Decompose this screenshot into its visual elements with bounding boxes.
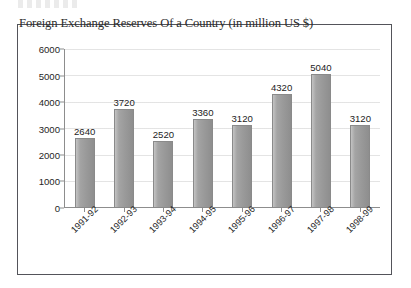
x-axis: 1991-92 1992-93 1993-94 1994-95 1995-96 … xyxy=(65,214,380,260)
y-axis: 6000 5000 4000 3000 2000 1000 0 xyxy=(18,49,60,208)
plot-wrapper: 6000 5000 4000 3000 2000 1000 0 2640 xyxy=(18,25,393,276)
y-axis-tick-label: 6000 xyxy=(39,44,60,55)
bar-group: 3360 xyxy=(183,49,222,208)
bar[interactable] xyxy=(232,125,252,208)
y-axis-tick-label: 2000 xyxy=(39,150,60,161)
bar-group: 3120 xyxy=(341,49,380,208)
x-axis-label-slot: 1991-92 xyxy=(65,214,104,260)
bar[interactable] xyxy=(272,94,292,208)
bar[interactable] xyxy=(153,141,173,208)
bar-series: 2640 3720 2520 3360 3120 4320 xyxy=(65,49,380,208)
y-axis-tick-label: 1000 xyxy=(39,176,60,187)
bar[interactable] xyxy=(311,74,331,208)
x-axis-label-slot: 1998-99 xyxy=(341,214,380,260)
bar-group: 2520 xyxy=(144,49,183,208)
bar[interactable] xyxy=(114,109,134,208)
bar-group: 2640 xyxy=(65,49,104,208)
x-axis-label-slot: 1993-94 xyxy=(144,214,183,260)
x-axis-label-slot: 1994-95 xyxy=(183,214,222,260)
x-axis-label-slot: 1992-93 xyxy=(104,214,143,260)
bar[interactable] xyxy=(193,119,213,208)
bar-value-label: 2520 xyxy=(153,129,174,140)
bar-group: 5040 xyxy=(301,49,340,208)
bar-value-label: 5040 xyxy=(310,62,331,73)
bar-value-label: 3360 xyxy=(192,107,213,118)
bar-group: 3720 xyxy=(104,49,143,208)
bar-value-label: 3720 xyxy=(113,97,134,108)
bar-value-label: 4320 xyxy=(271,82,292,93)
chart-figure-frame: 6000 5000 4000 3000 2000 1000 0 2640 xyxy=(17,24,392,275)
y-axis-tick-label: 5000 xyxy=(39,70,60,81)
bar-group: 3120 xyxy=(223,49,262,208)
bar-group: 4320 xyxy=(262,49,301,208)
y-axis-tick-label: 3000 xyxy=(39,123,60,134)
scan-artifact xyxy=(18,0,78,8)
bar[interactable] xyxy=(75,138,95,208)
x-axis-label-slot: 1997-98 xyxy=(301,214,340,260)
y-axis-tick-label: 4000 xyxy=(39,96,60,107)
bar-value-label: 3120 xyxy=(350,113,371,124)
x-axis-label-slot: 1995-96 xyxy=(223,214,262,260)
x-axis-label-slot: 1996-97 xyxy=(262,214,301,260)
bar[interactable] xyxy=(350,125,370,208)
chart-title: Foreign Exchange Reserves Of a Country (… xyxy=(19,16,313,31)
bar-value-label: 3120 xyxy=(232,113,253,124)
bar-value-label: 2640 xyxy=(74,126,95,137)
